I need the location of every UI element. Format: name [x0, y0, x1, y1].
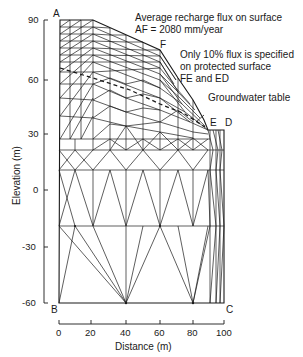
- corner-label-d: D: [225, 118, 232, 128]
- x-tick-label: 60: [154, 328, 165, 338]
- corner-label-f: F: [160, 40, 166, 50]
- y-tick-label: 30: [28, 129, 39, 139]
- x-axis: [59, 320, 224, 324]
- y-tick-label: 60: [28, 75, 39, 85]
- x-axis-label: Distance (m): [115, 341, 172, 353]
- y-axis: [44, 20, 48, 303]
- x-tick-label: 20: [85, 328, 96, 338]
- x-tick-label: 40: [120, 328, 131, 338]
- x-tick-label: 0: [56, 328, 61, 338]
- protected-annotation-line3: FE and ED: [180, 73, 229, 85]
- groundwater-label: Groundwater table: [208, 92, 290, 104]
- corner-label-a: A: [53, 9, 60, 19]
- x-tick-label: 100: [216, 328, 232, 338]
- protected-annotation-line1: Only 10% flux is specified: [180, 49, 294, 61]
- corner-label-e: E: [210, 118, 217, 128]
- y-tick-label: -30: [22, 242, 36, 252]
- y-tick-label: -60: [22, 298, 36, 308]
- recharge-annotation-line1: Average recharge flux on surface: [135, 12, 282, 24]
- y-tick-label: 90: [28, 15, 39, 25]
- y-axis-label: Elevation (m): [11, 146, 22, 205]
- y-tick-label: 0: [33, 185, 38, 195]
- corner-label-c: C: [226, 305, 233, 315]
- x-tick-label: 80: [187, 328, 198, 338]
- corner-label-b: B: [51, 305, 58, 315]
- recharge-annotation-line2: AF = 2080 mm/year: [135, 24, 223, 36]
- protected-annotation-line2: on protected surface: [180, 61, 271, 73]
